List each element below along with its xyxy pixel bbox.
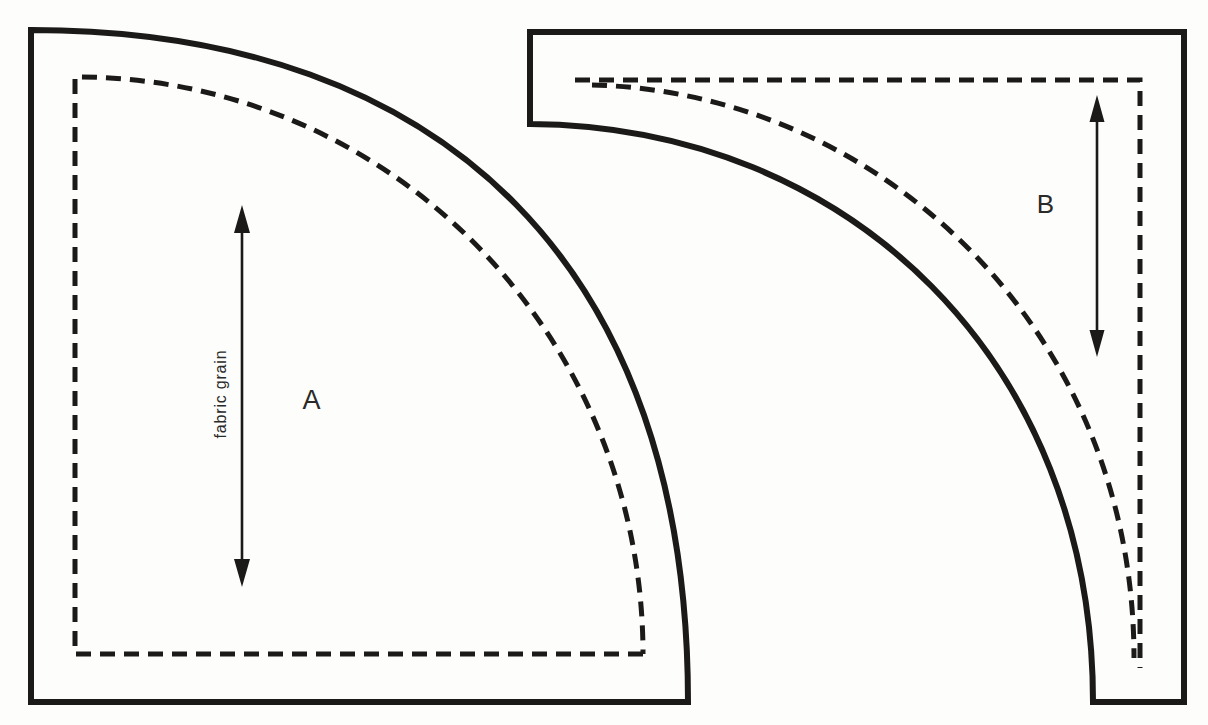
piece-b-label: B xyxy=(1037,189,1055,220)
piece-a-label: A xyxy=(302,385,321,416)
sewing-pattern-diagram: fabric grain A B xyxy=(0,0,1208,725)
piece-b-seam-edge-line xyxy=(575,80,1140,668)
piece-b-seam-curve-line xyxy=(592,85,1134,658)
fabric-grain-label: fabric grain xyxy=(212,350,230,439)
piece-a-cutting-outline xyxy=(31,30,688,702)
piece-a-seam-line xyxy=(75,77,643,654)
piece-a xyxy=(31,30,688,702)
pattern-pieces-canvas xyxy=(0,0,1208,725)
